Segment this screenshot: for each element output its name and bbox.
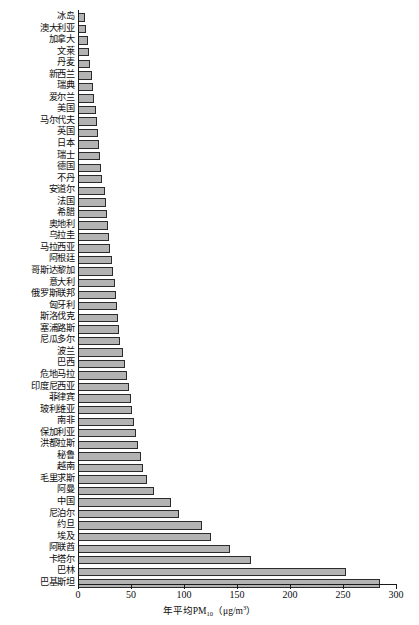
bar [78,487,154,495]
category-label: 不丹 [0,173,75,185]
x-tick-label: 250 [323,589,363,601]
category-label: 玻利维亚 [0,404,75,416]
x-tick-label: 0 [58,589,98,601]
category-label: 巴西 [0,357,75,369]
bar-track [78,233,109,241]
bar-track [78,25,86,33]
bar-track [78,267,113,275]
bar [78,521,202,529]
category-label: 意大利 [0,277,75,289]
category-label: 匈牙利 [0,300,75,312]
category-label: 美国 [0,103,75,115]
bar-track [78,164,101,172]
bar [78,267,113,275]
bar-track [78,221,108,229]
category-label: 哥斯达黎加 [0,265,75,277]
category-label: 保加利亚 [0,427,75,439]
category-label: 阿根廷 [0,253,75,265]
bar [78,152,100,160]
category-label: 英国 [0,126,75,138]
bar [78,175,102,183]
bar-track [78,198,106,206]
bar-track [78,256,112,264]
category-label: 安道尔 [0,184,75,196]
category-label: 澳大利亚 [0,23,75,35]
category-label: 巴基斯坦 [0,577,75,589]
bar [78,129,98,137]
bar-track [78,441,138,449]
bar-track [78,175,102,183]
category-label: 中国 [0,496,75,508]
bar-track [78,244,110,252]
category-label: 丹麦 [0,57,75,69]
bar-track [78,568,346,576]
chart-rows: 冰岛澳大利亚加拿大文莱丹麦新西兰瑞典爱尔兰美国马尔代夫英国日本瑞士德国不丹安道尔… [0,12,419,589]
category-label: 约旦 [0,519,75,531]
bar [78,210,107,218]
bar [78,452,141,460]
category-label: 文莱 [0,46,75,58]
bar [78,233,109,241]
bar [78,371,127,379]
bar [78,441,138,449]
bar [78,94,94,102]
x-tick-label: 300 [376,589,416,601]
bar [78,348,123,356]
bar [78,48,89,56]
bar-track [78,337,120,345]
bar-track [78,510,179,518]
bar-track [78,360,125,368]
bar [78,498,171,506]
bar-track [78,83,93,91]
bar [78,360,125,368]
bar [78,256,112,264]
category-label: 冰岛 [0,11,75,23]
bar-track [78,60,90,68]
category-label: 德国 [0,161,75,173]
bar-track [78,71,92,79]
category-label: 埃及 [0,531,75,543]
bar [78,221,108,229]
bar [78,337,120,345]
bar-track [78,187,105,195]
bar [78,198,106,206]
x-axis-title-close: ） [246,606,256,616]
category-label: 卡塔尔 [0,554,75,566]
category-label: 日本 [0,138,75,150]
x-axis-title-subscript: 10 [207,610,214,617]
bar-track [78,406,132,414]
bar [78,325,119,333]
bar-track [78,383,129,391]
bar [78,25,86,33]
bar [78,117,97,125]
category-label: 南非 [0,415,75,427]
category-label: 奥地利 [0,219,75,231]
x-axis-title-prefix: 年平均PM [163,606,207,616]
category-label: 尼泊尔 [0,508,75,520]
bar-track [78,314,118,322]
category-label: 俄罗斯联邦 [0,288,75,300]
category-label: 斯洛伐克 [0,311,75,323]
category-label: 毛里求斯 [0,473,75,485]
bar [78,545,230,553]
bar [78,13,85,21]
bar-track [78,394,131,402]
x-axis-title-superscript: 3 [243,604,246,611]
bar-track [78,464,143,472]
bar [78,106,96,114]
bar-track [78,429,136,437]
bar [78,556,251,564]
y-axis-line [78,10,79,584]
bar-track [78,117,97,125]
bar-track [78,140,99,148]
x-tick-label: 50 [111,589,151,601]
category-label: 尼瓜多尔 [0,334,75,346]
category-label: 巴林 [0,565,75,577]
category-label: 加拿大 [0,34,75,46]
bar [78,464,143,472]
category-label: 乌拉圭 [0,230,75,242]
bar-track [78,533,211,541]
bar-track [78,129,98,137]
bar [78,291,116,299]
bar-track [78,556,251,564]
